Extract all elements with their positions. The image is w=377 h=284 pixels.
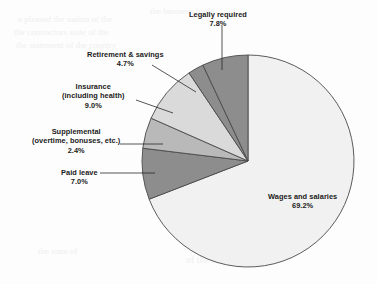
slice-label-percent: 2.4% [32, 146, 120, 155]
slice-label-supplemental: Supplemental (overtime, bonuses, etc.) 2… [32, 127, 120, 155]
slice-label-wages-and-salaries: Wages and salaries 69.2% [268, 192, 337, 211]
slice-label-legally-required: Legally required 7.8% [189, 10, 247, 29]
pie-chart-figure: a pleased the nation of thethe contracto… [0, 0, 377, 284]
slice-label-insurance: Insurance (including health) 9.0% [62, 82, 124, 110]
slice-label-subtext: (including health) [62, 91, 124, 100]
slice-label-percent: 4.7% [87, 59, 164, 68]
slice-label-percent: 9.0% [62, 101, 124, 110]
slice-label-percent: 7.8% [189, 19, 247, 28]
slice-label-percent: 69.2% [268, 201, 337, 210]
slice-label-percent: 7.0% [61, 177, 98, 186]
slice-label-subtext: (overtime, bonuses, etc.) [32, 136, 120, 145]
slice-label-text: Supplemental [52, 127, 101, 136]
slice-label-text: Retirement & savings [87, 50, 164, 59]
slice-label-text: Paid leave [61, 168, 98, 177]
slice-label-retirement-and-savings: Retirement & savings 4.7% [87, 50, 164, 69]
slice-label-text: Legally required [189, 10, 247, 19]
slice-label-text: Insurance [76, 82, 111, 91]
pie-slices [142, 55, 354, 267]
slice-label-text: Wages and salaries [268, 192, 337, 201]
slice-label-paid-leave: Paid leave 7.0% [61, 168, 98, 187]
